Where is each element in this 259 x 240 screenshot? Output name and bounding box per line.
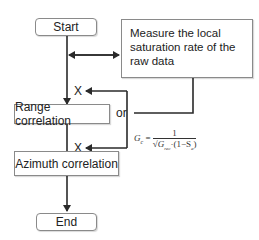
formula-denominator: √Grec·(1−Sa) xyxy=(153,139,197,151)
or-label: or xyxy=(116,106,127,120)
x-label-upper: X xyxy=(74,84,82,98)
azimuth-correlation-node: Azimuth correlation xyxy=(14,151,119,176)
end-label: End xyxy=(56,215,77,229)
gain-formula: Gc = 1 √Grec·(1−Sa) xyxy=(134,128,196,151)
range-correlation-node: Range correlation xyxy=(14,104,110,124)
start-label: Start xyxy=(53,20,78,34)
formula-close: ) xyxy=(193,139,196,149)
range-label: Range correlation xyxy=(15,100,109,128)
measure-saturation-node: Measure the local saturation rate of the… xyxy=(121,19,253,78)
start-node: Start xyxy=(35,18,97,36)
formula-fraction: 1 √Grec·(1−Sa) xyxy=(153,128,197,151)
formula-rest: ·(1−S xyxy=(170,139,191,149)
formula-lhs-sub: c xyxy=(141,139,144,145)
azimuth-label: Azimuth correlation xyxy=(15,157,118,171)
end-node: End xyxy=(36,213,97,231)
formula-eq: = xyxy=(145,133,150,143)
measure-label: Measure the local saturation rate of the… xyxy=(130,26,244,68)
